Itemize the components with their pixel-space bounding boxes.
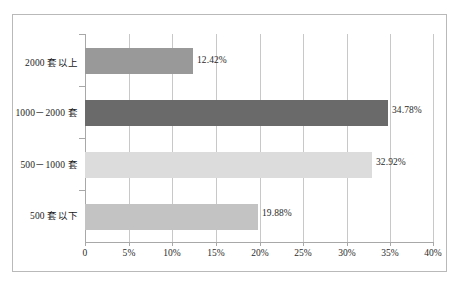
bar-1000-2000[interactable]	[85, 100, 388, 126]
data-label-500-1000: 32.92%	[376, 157, 406, 167]
gridline-20	[260, 34, 261, 242]
gridline-25	[303, 34, 304, 242]
category-label-above-2000: 2000 套以上	[25, 55, 78, 69]
xtick-0	[85, 242, 86, 246]
xtick-30	[347, 242, 348, 246]
category-label-500-1000: 500－1000 套	[20, 157, 78, 171]
bar-above-2000[interactable]	[85, 48, 193, 74]
xtick-label-35: 35%	[381, 248, 399, 258]
xtick-label-40: 40%	[424, 248, 442, 258]
xtick-35	[390, 242, 391, 246]
xtick-label-20: 20%	[251, 248, 269, 258]
gridline-35	[390, 34, 391, 242]
gridline-40	[433, 34, 434, 242]
xtick-label-0: 0	[83, 248, 88, 258]
xtick-label-25: 25%	[294, 248, 312, 258]
xtick-40	[433, 242, 434, 246]
bar-500-1000[interactable]	[85, 152, 372, 178]
data-label-above-2000: 12.42%	[197, 55, 227, 65]
xtick-label-10: 10%	[163, 248, 181, 258]
bar-below-500[interactable]	[85, 204, 258, 230]
xtick-25	[303, 242, 304, 246]
data-label-1000-2000: 34.78%	[392, 105, 422, 115]
chart-figure: 0 5% 10% 15% 20% 25% 30% 35% 40% 2000 套以…	[0, 0, 460, 285]
xtick-20	[260, 242, 261, 246]
xtick-label-15: 15%	[207, 248, 225, 258]
xtick-10	[172, 242, 173, 246]
chart-frame: 0 5% 10% 15% 20% 25% 30% 35% 40%	[12, 14, 447, 272]
gridline-30	[347, 34, 348, 242]
data-label-below-500: 19.88%	[262, 208, 292, 218]
xtick-label-5: 5%	[123, 248, 136, 258]
category-label-1000-2000: 1000－2000 套	[15, 105, 78, 119]
plot-area	[85, 34, 434, 242]
category-label-below-500: 500 套以下	[30, 208, 78, 222]
xtick-15	[216, 242, 217, 246]
xtick-5	[129, 242, 130, 246]
xtick-label-30: 30%	[338, 248, 356, 258]
